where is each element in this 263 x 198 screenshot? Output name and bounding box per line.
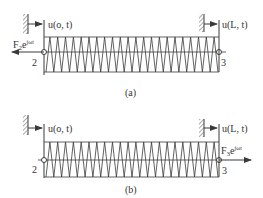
right-fixed-wall-icon bbox=[199, 119, 204, 137]
caption-a: (a) bbox=[125, 87, 136, 99]
node-2-label: 2 bbox=[32, 57, 37, 68]
right-displacement-label: u(L, t) bbox=[222, 123, 248, 135]
panel-b: u(o, t) 2 3 F3ejωt u(L, t) (b) bbox=[23, 115, 251, 196]
panel-a: u(o, t) 2 3 F2ejωt u(L, t) (a) bbox=[12, 14, 248, 99]
node-2-icon bbox=[42, 158, 47, 163]
spring-coil bbox=[38, 142, 219, 177]
node-3-label: 3 bbox=[222, 165, 227, 176]
spring-diagram: u(o, t) 2 3 F2ejωt u(L, t) (a) bbox=[0, 0, 263, 198]
node-3-label: 3 bbox=[221, 57, 226, 68]
force-label: F3ejωt bbox=[221, 145, 242, 158]
right-fixed-wall-icon bbox=[199, 14, 204, 32]
spring-coil bbox=[44, 37, 226, 72]
caption-b: (b) bbox=[125, 184, 137, 196]
left-displacement-label: u(o, t) bbox=[48, 123, 72, 135]
left-displacement-label: u(o, t) bbox=[48, 19, 72, 31]
left-fixed-wall-icon bbox=[23, 14, 28, 34]
node-2-label: 2 bbox=[32, 164, 37, 175]
left-fixed-wall-icon bbox=[23, 115, 28, 135]
right-displacement-label: u(L, t) bbox=[222, 19, 248, 31]
force-label: F2ejωt bbox=[13, 39, 34, 52]
